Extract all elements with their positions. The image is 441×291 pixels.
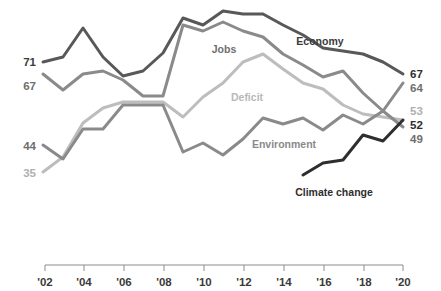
x-axis-tick-label: '18	[356, 276, 372, 288]
series-label-deficit: Deficit	[231, 91, 264, 103]
x-axis-tick-label: '16	[316, 276, 332, 288]
end-value-environment: 49	[410, 133, 423, 145]
series-group	[43, 11, 403, 175]
series-line-jobs	[43, 22, 403, 111]
end-value-economy: 67	[410, 68, 423, 80]
end-value-climate-change: 52	[410, 119, 423, 131]
series-label-environment: Environment	[252, 138, 317, 150]
x-axis-tick-label: '02	[37, 276, 53, 288]
series-label-jobs: Jobs	[212, 43, 237, 55]
end-value-jobs: 64	[410, 82, 423, 94]
series-label-economy: Economy	[296, 35, 343, 47]
x-axis: '02 '04 '06 '08 '10 '12 '14 '16 '18 '20	[37, 265, 411, 288]
x-axis-tick-label: '04	[76, 276, 92, 288]
start-value-environment: 44	[23, 140, 36, 152]
start-value-economy: 71	[23, 56, 36, 68]
x-axis-tick-label: '06	[116, 276, 132, 288]
x-axis-tick-label: '08	[156, 276, 172, 288]
end-value-deficit: 53	[410, 105, 423, 117]
x-axis-tick-label: '14	[276, 276, 292, 288]
series-label-climate-change: Climate change	[295, 186, 373, 198]
x-axis-tick-label: '10	[196, 276, 212, 288]
x-axis-tick-label: '12	[236, 276, 252, 288]
start-value-deficit: 35	[23, 167, 36, 179]
x-axis-tick-label: '20	[395, 276, 411, 288]
chart-canvas: Economy Jobs Deficit Environment Climate…	[0, 0, 441, 291]
start-value-jobs: 67	[23, 80, 36, 92]
line-chart: Economy Jobs Deficit Environment Climate…	[0, 0, 441, 291]
